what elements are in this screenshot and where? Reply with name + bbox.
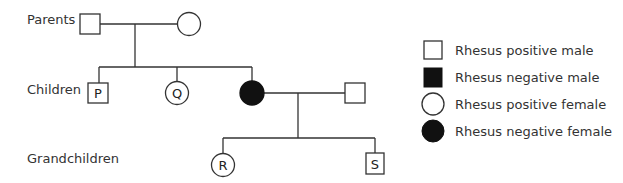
child-daughter-symbol: [240, 81, 264, 105]
legend-filled-circle-icon: [422, 120, 444, 142]
grandchild-R-label: R: [218, 158, 227, 173]
grandchild-S-label: S: [371, 157, 379, 172]
legend-item-label: Rhesus positive male: [455, 43, 594, 58]
legend-item-label: Rhesus negative female: [455, 124, 612, 139]
legend-filled-square-icon: [424, 68, 442, 87]
child-Q-label: Q: [172, 86, 182, 101]
legend-item-label: Rhesus positive female: [455, 97, 606, 112]
generation-label-children: Children: [27, 82, 81, 97]
parent-mother-symbol: [178, 13, 201, 36]
pedigree-diagram: Parents Children Grandchildren P Q R S R…: [0, 0, 623, 183]
legend-item-label: Rhesus negative male: [455, 70, 599, 85]
legend-open-circle-icon: [422, 93, 444, 115]
legend: Rhesus positive male Rhesus negative mal…: [422, 41, 612, 142]
generation-label-parents: Parents: [27, 12, 76, 27]
parent-father-symbol: [80, 14, 100, 34]
pedigree-lines: [99, 24, 375, 154]
spouse-symbol: [345, 83, 365, 103]
legend-open-square-icon: [424, 41, 442, 59]
generation-label-grandchildren: Grandchildren: [27, 151, 119, 166]
child-P-label: P: [94, 86, 102, 101]
